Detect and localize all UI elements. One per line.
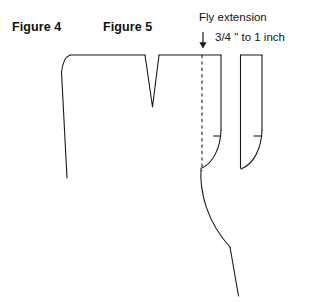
figure-5-label: Figure 5 — [103, 20, 152, 34]
fly-extension-measurement-label: 3/4 " to 1 inch — [215, 31, 285, 43]
inseam-line — [230, 247, 239, 296]
figure-4-label: Figure 4 — [12, 20, 61, 34]
pattern-drawing — [0, 0, 326, 302]
fly-extension-callout-title: Fly extension — [199, 11, 267, 23]
pattern-diagram: Figure 4 Figure 5 Fly extension 3/4 " to… — [0, 0, 326, 302]
waist-dart-notch — [145, 55, 159, 107]
left-side-seam — [62, 55, 71, 178]
down-arrow-icon — [199, 32, 206, 49]
crotch-curve — [201, 168, 230, 247]
